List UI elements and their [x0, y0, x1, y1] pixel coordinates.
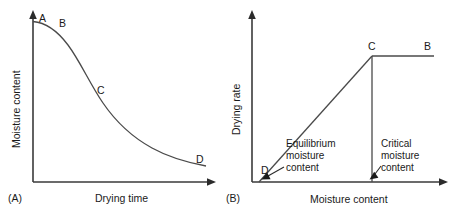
- panel-a-x-axis-label: Drying time: [95, 192, 148, 204]
- panel-a-point-label-d: D: [196, 153, 204, 165]
- panel-a-point-label-a: A: [39, 12, 46, 24]
- panel-b-point-label-b: B: [424, 40, 431, 52]
- critical-annotation-line-3: content: [381, 162, 414, 173]
- panel-a-point-label-c: C: [97, 84, 105, 96]
- panel-a-point-label-b: B: [59, 17, 66, 29]
- panel-b: D C B Equilibrium moisture content Criti…: [226, 10, 448, 205]
- panel-a: A B C D Moisture content Drying time (A): [8, 10, 216, 204]
- critical-annotation-line-2: moisture: [381, 150, 420, 161]
- panel-a-y-axis-label: Moisture content: [10, 70, 22, 148]
- panel-b-y-axis-label: Drying rate: [230, 83, 242, 135]
- critical-annotation-line-1: Critical: [381, 138, 412, 149]
- equilibrium-annotation-line-3: content: [286, 162, 319, 173]
- critical-annotation-arrowhead: [370, 172, 379, 180]
- panel-a-y-axis: [29, 10, 37, 182]
- panel-a-label: (A): [8, 192, 22, 204]
- panel-b-x-axis-label: Moisture content: [310, 193, 388, 205]
- equilibrium-moisture-content-annotation: Equilibrium moisture content: [262, 138, 336, 180]
- drying-curves-figure: A B C D Moisture content Drying time (A): [0, 0, 460, 215]
- panel-b-y-axis: [248, 10, 256, 182]
- panel-a-moisture-curve: [33, 22, 206, 167]
- panel-a-x-axis: [33, 178, 216, 186]
- panel-b-point-label-c: C: [368, 40, 376, 52]
- panel-b-x-axis: [252, 178, 448, 186]
- critical-moisture-content-annotation: Critical moisture content: [370, 138, 420, 180]
- panel-b-label: (B): [226, 192, 240, 204]
- figure-canvas: A B C D Moisture content Drying time (A): [0, 0, 460, 215]
- equilibrium-annotation-line-2: moisture: [286, 150, 325, 161]
- equilibrium-annotation-line-1: Equilibrium: [286, 138, 335, 149]
